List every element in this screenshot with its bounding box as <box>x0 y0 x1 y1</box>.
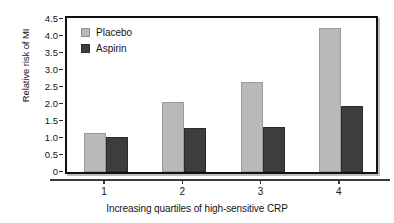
bar-placebo-q2 <box>162 102 184 172</box>
y-tick-label: 3.5 <box>34 48 58 58</box>
y-tick-label: 3.0 <box>34 65 58 75</box>
y-tick-label: 0.5 <box>34 150 58 160</box>
y-tick-label: 4.5 <box>34 14 58 24</box>
chart-legend: Placebo Aspirin <box>81 25 132 57</box>
y-tick-mark <box>59 137 63 138</box>
legend-label-placebo: Placebo <box>96 27 132 38</box>
x-tick-mark <box>260 179 262 184</box>
y-tick-mark <box>59 35 63 36</box>
x-tick-label: 3 <box>246 186 276 197</box>
plot-area-frame: Placebo Aspirin <box>65 16 378 174</box>
bar-placebo-q3 <box>241 82 263 172</box>
bar-placebo-q1 <box>84 133 106 172</box>
y-tick-mark <box>59 69 63 70</box>
x-tick-mark <box>182 179 184 184</box>
legend-swatch-aspirin <box>81 44 90 53</box>
y-axis-tick-labels: 4.54.03.53.02.52.01.51.00.50 <box>34 12 58 177</box>
y-tick-mark <box>59 86 63 87</box>
y-tick-label: 1.5 <box>34 116 58 126</box>
bar-placebo-q4 <box>319 28 341 173</box>
y-tick-mark <box>59 52 63 53</box>
y-tick-label: 0 <box>34 167 58 177</box>
y-tick-mark <box>59 103 63 104</box>
legend-item-aspirin: Aspirin <box>81 41 132 55</box>
bar-aspirin-q2 <box>184 128 206 172</box>
y-tick-mark <box>59 154 63 155</box>
y-tick-label: 1.0 <box>34 133 58 143</box>
bar-aspirin-q4 <box>341 106 363 172</box>
bar-chart-figure: Relative risk of MI 4.54.03.53.02.52.01.… <box>0 0 394 223</box>
y-tick-label: 2.0 <box>34 99 58 109</box>
y-tick-mark <box>59 171 63 172</box>
x-tick-mark <box>338 179 340 184</box>
y-tick-label: 4.0 <box>34 31 58 41</box>
bar-aspirin-q3 <box>263 127 285 172</box>
x-tick-label: 2 <box>167 186 197 197</box>
x-axis-title: Increasing quartiles of high-sensitive C… <box>0 203 394 214</box>
y-tick-mark <box>59 120 63 121</box>
legend-swatch-placebo <box>81 28 90 37</box>
y-tick-label: 2.5 <box>34 82 58 92</box>
legend-label-aspirin: Aspirin <box>96 43 127 54</box>
y-axis-title: Relative risk of MI <box>20 0 31 136</box>
bar-aspirin-q1 <box>106 137 128 172</box>
x-tick-label: 4 <box>324 186 354 197</box>
legend-item-placebo: Placebo <box>81 25 132 39</box>
x-tick-mark <box>103 179 105 184</box>
y-tick-mark <box>59 18 63 19</box>
x-tick-label: 1 <box>89 186 119 197</box>
